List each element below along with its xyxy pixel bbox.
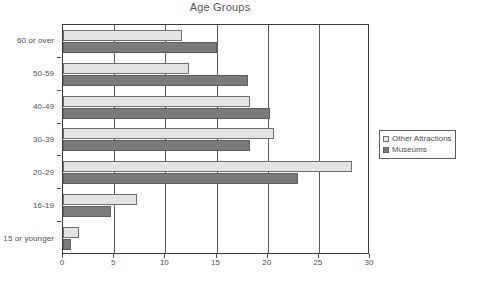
- x-axis-tick-mark: [62, 254, 63, 258]
- bar: [63, 173, 298, 184]
- y-axis: 15 or younger16-1920-2930-3940-4950-5960…: [0, 24, 58, 254]
- bar: [63, 239, 71, 250]
- y-axis-tick-label: 40-49: [33, 102, 54, 111]
- x-axis-tick-label: 20: [262, 258, 271, 267]
- x-axis-tick-mark: [113, 254, 114, 258]
- bar: [63, 42, 217, 53]
- x-axis-tick-label: 5: [111, 258, 115, 267]
- bar: [63, 75, 248, 86]
- legend-swatch-icon: [383, 147, 389, 153]
- bar: [63, 108, 270, 119]
- x-axis: 051015202530: [62, 258, 369, 272]
- x-axis-tick-label: 30: [365, 258, 374, 267]
- legend-label: Museums: [392, 145, 427, 155]
- y-axis-tick-label: 16-19: [33, 200, 54, 209]
- bar: [63, 30, 182, 41]
- bars-layer: [63, 25, 368, 253]
- chart-title: Age Groups: [0, 1, 440, 13]
- x-axis-tick-mark: [318, 254, 319, 258]
- y-axis-tick-mark: [57, 90, 61, 91]
- x-axis-tick-label: 0: [60, 258, 64, 267]
- x-axis-tick-mark: [164, 254, 165, 258]
- bar: [63, 96, 250, 107]
- bar: [63, 63, 189, 74]
- bar: [63, 227, 79, 238]
- y-axis-tick-label: 20-29: [33, 167, 54, 176]
- chart-legend: Other AttractionsMuseums: [379, 130, 456, 159]
- legend-entry[interactable]: Other Attractions: [383, 134, 452, 144]
- x-axis-tick-mark: [267, 254, 268, 258]
- bar: [63, 206, 111, 217]
- y-axis-tick-label: 15 or younger: [3, 233, 54, 242]
- y-axis-tick-mark: [57, 123, 61, 124]
- chart-figure: Age Groups 15 or younger16-1920-2930-394…: [0, 0, 480, 291]
- y-axis-tick-mark: [57, 221, 61, 222]
- x-axis-tick-label: 15: [211, 258, 220, 267]
- y-axis-tick-mark: [57, 57, 61, 58]
- bar-group: [63, 156, 368, 189]
- bar: [63, 128, 274, 139]
- plot-area: [62, 24, 369, 254]
- bar-group: [63, 91, 368, 124]
- legend-swatch-icon: [383, 136, 389, 142]
- y-axis-tick-mark: [57, 155, 61, 156]
- x-axis-tick-mark: [216, 254, 217, 258]
- bar: [63, 161, 352, 172]
- bar-group: [63, 124, 368, 157]
- y-axis-tick-label: 30-39: [33, 135, 54, 144]
- y-axis-tick-label: 60 or over: [17, 36, 54, 45]
- x-axis-tick-label: 10: [160, 258, 169, 267]
- x-axis-tick-mark: [369, 254, 370, 258]
- bar: [63, 194, 137, 205]
- bar-group: [63, 25, 368, 58]
- legend-label: Other Attractions: [392, 134, 452, 144]
- bar: [63, 140, 250, 151]
- x-axis-tick-label: 25: [313, 258, 322, 267]
- y-axis-tick-label: 50-59: [33, 69, 54, 78]
- bar-group: [63, 58, 368, 91]
- legend-entry[interactable]: Museums: [383, 145, 452, 155]
- bar-group: [63, 222, 368, 255]
- y-axis-tick-mark: [57, 188, 61, 189]
- bar-group: [63, 189, 368, 222]
